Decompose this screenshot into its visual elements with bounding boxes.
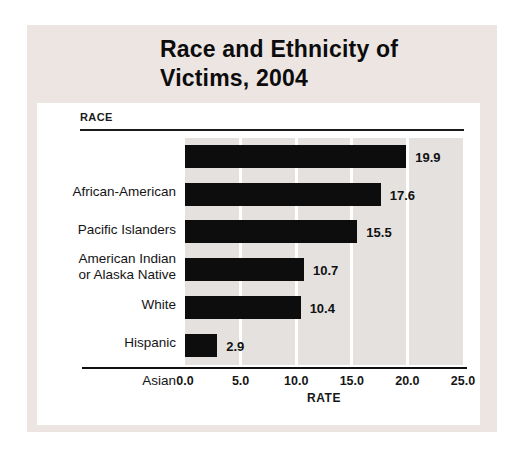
figure-background: Race and Ethnicity of Victims, 2004 RACE… <box>27 25 497 432</box>
bar-value-label: 15.5 <box>366 224 391 239</box>
chart-panel: RACE African-AmericanPacific IslandersAm… <box>37 103 480 425</box>
gridline <box>239 138 242 365</box>
bar <box>185 145 406 168</box>
chart-title-line2: Victims, 2004 <box>160 64 398 93</box>
category-label: American Indian or Alaska Native <box>78 251 176 283</box>
bar-value-label: 2.9 <box>226 338 244 353</box>
x-tick-label: 10.0 <box>284 374 308 388</box>
x-tick-label: 15.0 <box>340 374 364 388</box>
x-axis-line <box>82 367 467 369</box>
page: Race and Ethnicity of Victims, 2004 RACE… <box>0 0 517 452</box>
bar-value-label: 10.4 <box>310 300 335 315</box>
x-axis-title: RATE <box>185 391 463 405</box>
bar-value-label: 19.9 <box>415 149 440 164</box>
bar <box>185 296 301 319</box>
bar-value-label: 17.6 <box>390 187 415 202</box>
bar <box>185 258 304 281</box>
x-tick-label: 20.0 <box>395 374 419 388</box>
category-label: White <box>141 297 176 313</box>
chart-title: Race and Ethnicity of Victims, 2004 <box>160 35 398 93</box>
race-axis-title: RACE <box>80 111 113 123</box>
category-labels: African-AmericanPacific IslandersAmerica… <box>37 138 179 365</box>
bar <box>185 220 357 243</box>
x-tick-label: 5.0 <box>232 374 249 388</box>
category-label: Pacific Islanders <box>78 222 176 238</box>
x-tick-label: 0.0 <box>176 374 193 388</box>
gridline <box>406 138 409 365</box>
chart-title-line1: Race and Ethnicity of <box>160 35 398 64</box>
gridline <box>350 138 353 365</box>
plot-area: 19.917.615.510.710.42.9 <box>185 138 463 365</box>
category-label: Asian <box>142 373 176 389</box>
gridline <box>295 138 298 365</box>
category-label: African-American <box>72 184 176 200</box>
bar <box>185 183 381 206</box>
bar-value-label: 10.7 <box>313 262 338 277</box>
category-label: Hispanic <box>124 335 176 351</box>
bar <box>185 334 217 357</box>
race-axis-underline <box>80 129 464 131</box>
x-tick-label: 25.0 <box>451 374 475 388</box>
